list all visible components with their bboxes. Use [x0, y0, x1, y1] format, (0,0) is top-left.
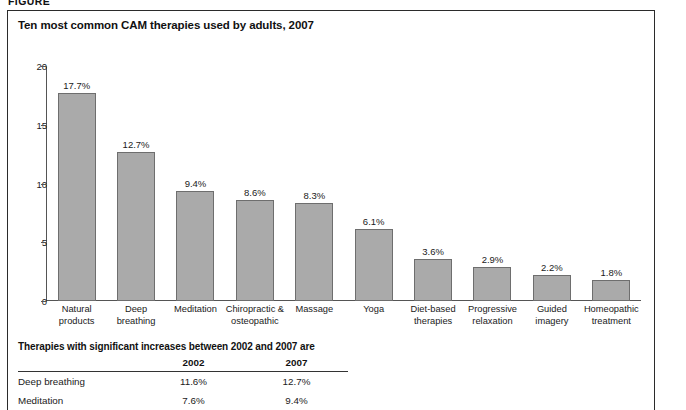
category-label-line: treatment [582, 316, 641, 328]
category-label-line: relaxation [463, 316, 522, 328]
bar[interactable] [117, 152, 155, 301]
category-label: Naturalproducts [47, 304, 106, 327]
bar-slot: 2.2% [522, 66, 581, 301]
bar-value-label: 9.4% [185, 178, 207, 189]
category-label-line: osteopathic [225, 316, 284, 328]
cell-2002: 11.6% [142, 372, 245, 392]
cell-2007: 9.4% [245, 391, 348, 410]
bar[interactable] [295, 203, 333, 301]
y-axis-tick-mark-wrap [8, 125, 47, 126]
increase-table-header-row: 2002 2007 [18, 356, 348, 372]
category-label: Diet-basedtherapies [403, 304, 462, 327]
x-axis-category-labels: NaturalproductsDeepbreathingMeditationCh… [47, 304, 641, 344]
cell-therapy: Deep breathing [18, 372, 142, 392]
bar-slot: 8.6% [225, 66, 284, 301]
category-label-line: products [47, 316, 106, 328]
bar-value-label: 3.6% [422, 246, 444, 257]
bar[interactable] [355, 229, 393, 301]
bar-slot: 17.7% [47, 66, 106, 301]
bar-slot: 12.7% [106, 66, 165, 301]
increase-table: 2002 2007 Deep breathing11.6%12.7%Medita… [18, 356, 348, 410]
y-axis-tick-mark-wrap [8, 66, 47, 67]
figure-number-stub: FIGURE [8, 0, 94, 6]
column-header-2002: 2002 [142, 356, 245, 372]
y-axis-tick-mark-wrap [8, 242, 47, 243]
bars-layer: 17.7%12.7%9.4%8.6%8.3%6.1%3.6%2.9%2.2%1.… [47, 66, 641, 301]
bar-slot: 1.8% [582, 66, 641, 301]
category-label-line: Massage [285, 304, 344, 316]
category-label-line: Progressive [463, 304, 522, 316]
bar-slot: 9.4% [166, 66, 225, 301]
cell-2002: 7.6% [142, 391, 245, 410]
increase-table-heading: Therapies with significant increases bet… [18, 341, 646, 352]
category-label: Guidedimagery [522, 304, 581, 327]
category-label-line: breathing [106, 316, 165, 328]
cell-therapy: Meditation [18, 391, 142, 410]
bar-value-label: 1.8% [600, 267, 622, 278]
y-axis-tick-mark-wrap [8, 301, 47, 302]
bar[interactable] [176, 191, 214, 301]
category-label-line: Diet-based [403, 304, 462, 316]
bar-chart-plot-area: 05101520 17.7%12.7%9.4%8.6%8.3%6.1%3.6%2… [8, 56, 655, 346]
category-label-line: Meditation [166, 304, 225, 316]
y-axis-tick-mark [41, 301, 47, 302]
bar-value-label: 12.7% [123, 139, 150, 150]
category-label-line: therapies [403, 316, 462, 328]
cell-2007: 12.7% [245, 372, 348, 392]
category-label-line: Deep [106, 304, 165, 316]
table-row: Meditation7.6%9.4% [18, 391, 348, 410]
category-label-line: Homeopathic [582, 304, 641, 316]
bar-value-label: 2.9% [482, 254, 504, 265]
category-label: Chiropractic &osteopathic [225, 304, 284, 327]
bar[interactable] [473, 267, 511, 301]
y-axis-tick-mark-wrap [8, 184, 47, 185]
category-label-line: Yoga [344, 304, 403, 316]
bar[interactable] [414, 259, 452, 301]
increase-table-block: Therapies with significant increases bet… [18, 341, 646, 410]
column-header-therapy [18, 356, 142, 372]
category-label-line: Natural [47, 304, 106, 316]
bar[interactable] [236, 200, 274, 301]
bar-slot: 6.1% [344, 66, 403, 301]
category-label: Deepbreathing [106, 304, 165, 327]
bar[interactable] [592, 280, 630, 301]
category-label-line: Chiropractic & [225, 304, 284, 316]
bar-slot: 2.9% [463, 66, 522, 301]
bar-value-label: 8.6% [244, 187, 266, 198]
figure-panel: Ten most common CAM therapies used by ad… [7, 10, 655, 410]
bar-value-label: 6.1% [363, 216, 385, 227]
table-row: Deep breathing11.6%12.7% [18, 372, 348, 392]
category-label: Homeopathictreatment [582, 304, 641, 327]
bar[interactable] [58, 93, 96, 301]
increase-table-body: Deep breathing11.6%12.7%Meditation7.6%9.… [18, 372, 348, 410]
category-label-line: imagery [522, 316, 581, 328]
bar[interactable] [533, 275, 571, 301]
category-label: Meditation [166, 304, 225, 316]
bar-slot: 8.3% [285, 66, 344, 301]
category-label: Massage [285, 304, 344, 316]
bar-value-label: 8.3% [303, 190, 325, 201]
bar-value-label: 2.2% [541, 262, 563, 273]
category-label: Progressiverelaxation [463, 304, 522, 327]
bar-slot: 3.6% [403, 66, 462, 301]
chart-title: Ten most common CAM therapies used by ad… [18, 19, 314, 31]
bar-value-label: 17.7% [63, 80, 90, 91]
column-header-2007: 2007 [245, 356, 348, 372]
category-label-line: Guided [522, 304, 581, 316]
category-label: Yoga [344, 304, 403, 316]
increase-table-head: 2002 2007 [18, 356, 348, 372]
